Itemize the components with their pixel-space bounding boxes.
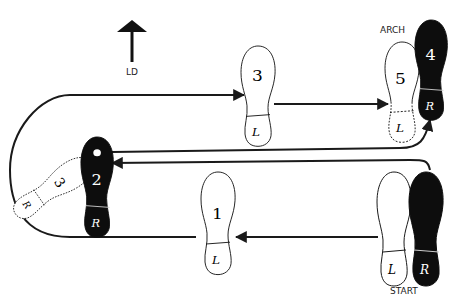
foot-step-4: 4 R (415, 20, 447, 120)
heel-label: R (90, 217, 100, 229)
step-number: 3 (252, 67, 263, 85)
path-start-to-2 (112, 160, 430, 170)
heel-label: L (211, 253, 220, 266)
step-number: 5 (395, 70, 406, 88)
heel-label: R (424, 100, 434, 112)
step-number: 4 (425, 46, 435, 63)
foot-start-right: R (409, 172, 443, 286)
dance-step-diagram: LD L R START 1 L 3 R (0, 0, 472, 299)
heel-label: L (387, 263, 396, 277)
step-number: 2 (91, 172, 101, 189)
ld-label: LD (126, 67, 138, 77)
heel-label: R (419, 263, 429, 277)
foot-step-5: 5 L (385, 42, 419, 142)
foot-step-1: 1 L (201, 172, 235, 275)
step-number: 1 (212, 205, 223, 223)
foot-start-left: L (377, 172, 411, 286)
start-label: START (390, 286, 418, 296)
heel-label: L (251, 126, 260, 138)
arch-label: ARCH (380, 25, 405, 35)
heel-label: L (395, 122, 404, 134)
foot-step-3: 3 L (241, 46, 275, 146)
line-of-dance-indicator: LD (117, 20, 147, 77)
arrow-up-icon-head (117, 20, 147, 32)
foot-step-2: 2 R (81, 137, 113, 237)
